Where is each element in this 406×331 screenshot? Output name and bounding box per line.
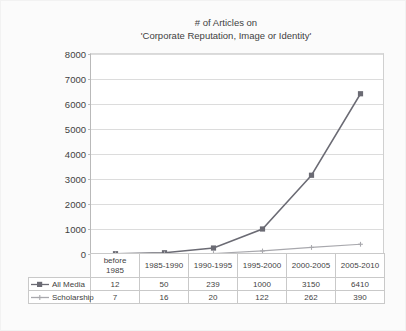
x-axis-category-header: 1985-1990	[140, 254, 189, 278]
y-axis-tick-label: 6000	[65, 99, 86, 110]
legend-label: All Media	[52, 280, 85, 289]
table-header-corner	[29, 254, 91, 278]
x-axis-category-header: before1985	[91, 254, 140, 278]
legend-marker-square-icon	[31, 280, 49, 289]
table-row: Scholarship71620122262390	[29, 291, 385, 304]
data-point-marker	[358, 242, 363, 247]
y-axis-tick-label: 2000	[65, 199, 86, 210]
chart-figure: # of Articles on 'Corporate Reputation, …	[0, 0, 406, 331]
chart-title: # of Articles on 'Corporate Reputation, …	[61, 17, 391, 42]
table-cell-value: 122	[238, 291, 287, 304]
table-cell-value: 12	[91, 278, 140, 291]
table-cell-value: 239	[189, 278, 238, 291]
table-cell-value: 6410	[336, 278, 385, 291]
data-table: before19851985-19901990-19951995-2000200…	[28, 253, 385, 304]
legend-entry-all-media: All Media	[29, 278, 91, 291]
chart-title-line-1: # of Articles on	[61, 17, 391, 30]
data-point-marker	[260, 226, 265, 231]
table-cell-value: 16	[140, 291, 189, 304]
data-point-marker	[309, 173, 314, 178]
series-layer	[91, 54, 385, 254]
legend-entry-scholarship: Scholarship	[29, 291, 91, 304]
legend-marker-plus-icon	[31, 293, 49, 302]
x-axis-category-header: 2000-2005	[287, 254, 336, 278]
y-axis-tick-label: 5000	[65, 124, 86, 135]
y-axis-tick-label: 3000	[65, 174, 86, 185]
table-cell-value: 50	[140, 278, 189, 291]
table-cell-value: 262	[287, 291, 336, 304]
x-axis-category-header: 1995-2000	[238, 254, 287, 278]
y-axis-tick-label: 8000	[65, 49, 86, 60]
table-row: All Media1250239100031506410	[29, 278, 385, 291]
table-header-row: before19851985-19901990-19951995-2000200…	[29, 254, 385, 278]
table-cell-value: 3150	[287, 278, 336, 291]
plot-area: 800070006000500040003000200010000	[90, 53, 384, 253]
data-point-marker	[309, 245, 314, 250]
table-cell-value: 1000	[238, 278, 287, 291]
x-axis-category-header: 1990-1995	[189, 254, 238, 278]
y-axis-tick-label: 1000	[65, 224, 86, 235]
chart-title-line-2: 'Corporate Reputation, Image or Identity…	[61, 30, 391, 43]
y-axis-tick-label: 7000	[65, 74, 86, 85]
table-cell-value: 7	[91, 291, 140, 304]
x-axis-category-header: 2005-2010	[336, 254, 385, 278]
data-point-marker	[211, 245, 216, 250]
series-line-all-media	[116, 94, 361, 254]
legend-label: Scholarship	[52, 293, 94, 302]
table-cell-value: 390	[336, 291, 385, 304]
table-cell-value: 20	[189, 291, 238, 304]
chart-canvas: # of Articles on 'Corporate Reputation, …	[1, 1, 406, 331]
data-point-marker	[358, 91, 363, 96]
y-axis-tick-label: 4000	[65, 149, 86, 160]
